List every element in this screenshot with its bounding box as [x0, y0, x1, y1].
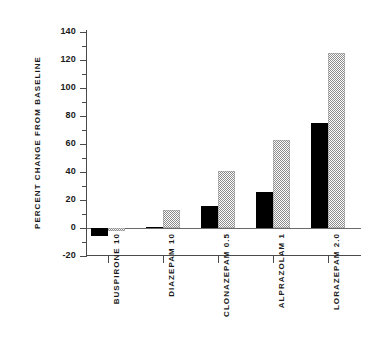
x-category-label: BUSPIRONE 10 — [112, 233, 121, 353]
y-tick-label: 60 — [36, 138, 76, 148]
x-tick — [108, 256, 109, 263]
zero-baseline — [86, 228, 361, 229]
y-tick-minor — [82, 158, 87, 159]
y-tick-label: 80 — [36, 110, 76, 120]
y-tick-minor — [82, 214, 87, 215]
y-axis-line — [86, 30, 87, 256]
y-tick-major — [80, 88, 87, 89]
y-tick-major — [80, 200, 87, 201]
y-tick-major — [80, 32, 87, 33]
y-tick-label: 40 — [36, 166, 76, 176]
y-tick-label: 120 — [36, 54, 76, 64]
x-tick — [273, 256, 274, 263]
y-tick-minor — [82, 102, 87, 103]
y-tick-minor — [82, 186, 87, 187]
bar-solid-2 — [201, 206, 218, 228]
y-tick-minor — [82, 46, 87, 47]
x-category-label: LORAZEPAM 2.0 — [332, 233, 341, 353]
y-tick-major — [80, 256, 87, 257]
x-tick — [163, 256, 164, 263]
bar-hatched-4 — [328, 53, 345, 228]
y-tick-label: 20 — [36, 194, 76, 204]
bar-hatched-2 — [218, 171, 235, 228]
bar-solid-0 — [91, 228, 108, 236]
y-tick-label: 140 — [36, 26, 76, 36]
bar-chart-figure: PERCENT CHANGE FROM BASELINE 14012010080… — [0, 0, 381, 360]
y-tick-label: 0 — [36, 222, 76, 232]
y-tick-minor — [82, 130, 87, 131]
y-tick-major — [80, 60, 87, 61]
bar-solid-3 — [256, 192, 273, 228]
y-tick-major — [80, 172, 87, 173]
x-tick — [218, 256, 219, 263]
bar-hatched-0 — [108, 228, 125, 231]
y-tick-major — [80, 116, 87, 117]
y-tick-label: -20 — [36, 250, 76, 260]
y-tick-label: 100 — [36, 82, 76, 92]
x-category-label: CLONAZEPAM 0.5 — [222, 233, 231, 353]
y-tick-minor — [82, 242, 87, 243]
bar-hatched-1 — [163, 210, 180, 228]
y-tick-minor — [82, 74, 87, 75]
x-category-label: ALPRAZOLAM 1 — [277, 233, 286, 353]
bar-solid-4 — [311, 123, 328, 228]
bar-hatched-3 — [273, 140, 290, 228]
bar-solid-1 — [146, 227, 163, 228]
x-tick — [328, 256, 329, 263]
y-tick-major — [80, 228, 87, 229]
y-tick-major — [80, 144, 87, 145]
x-category-label: DIAZEPAM 10 — [167, 233, 176, 353]
